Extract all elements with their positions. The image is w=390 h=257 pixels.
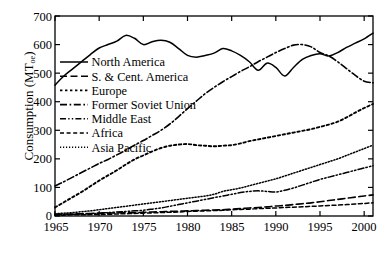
legend-label-middle-east: Middle East bbox=[92, 112, 152, 126]
series-line-middle-east bbox=[55, 166, 373, 215]
legend-label-north-america: North America bbox=[92, 55, 166, 69]
legend: North AmericaS. & Cent. AmericaEuropeFor… bbox=[60, 55, 196, 154]
consumption-line-chart: Consumption (MToe) 700 600 500 400 300 2… bbox=[0, 0, 390, 257]
legend-label-africa: Africa bbox=[92, 126, 124, 140]
legend-label-asia-pacific: Asia Pacific bbox=[92, 141, 152, 155]
legend-label-s-cent-america: S. & Cent. America bbox=[92, 70, 189, 84]
plot-area: North AmericaS. & Cent. AmericaEuropeFor… bbox=[0, 0, 390, 257]
legend-label-former-soviet-union: Former Soviet Union bbox=[92, 98, 197, 112]
legend-label-europe: Europe bbox=[92, 84, 128, 98]
